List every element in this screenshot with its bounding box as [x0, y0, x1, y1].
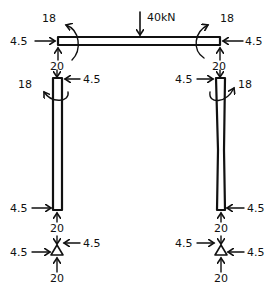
left-support — [51, 245, 63, 255]
left-column-top-horizontal-force-label: 4.5 — [83, 73, 101, 86]
beam-left-moment-arrow — [66, 25, 78, 60]
right-column-top-moment-label: 18 — [238, 78, 252, 91]
right-support-right-horizontal-force-label: 4.5 — [247, 246, 265, 259]
right-column-bottom-vertical-force-label: 20 — [214, 222, 228, 235]
beam-left-horizontal-force-label: 4.5 — [10, 35, 28, 48]
left-column-bottom-horizontal-force-label: 4.5 — [10, 202, 28, 215]
right-support-vertical-force-label: 20 — [214, 272, 228, 285]
load-label: 40kN — [147, 11, 176, 24]
right-column — [216, 78, 225, 210]
left-column — [53, 78, 62, 210]
beam-right-moment-arrow — [196, 25, 208, 58]
left-column-top-moment-arrow — [44, 92, 68, 100]
beam-right-vertical-force-label: 20 — [212, 60, 226, 73]
beam-left-moment-label: 18 — [42, 12, 56, 25]
left-column-bottom-vertical-force-label: 20 — [50, 222, 64, 235]
left-support-vertical-force-label: 20 — [50, 272, 64, 285]
left-column-top-moment-label: 18 — [18, 78, 32, 91]
right-column-bottom-horizontal-force-label: 4.5 — [247, 202, 265, 215]
right-column-top-moment-arrow — [210, 88, 234, 101]
beam-right-moment-label: 18 — [220, 12, 234, 25]
right-column-top-horizontal-force-label: 4.5 — [175, 73, 193, 86]
beam-right-horizontal-force-label: 4.5 — [245, 35, 263, 48]
right-support — [215, 245, 227, 255]
left-support-left-horizontal-force-label: 4.5 — [10, 246, 28, 259]
right-support-left-horizontal-force-label: 4.5 — [175, 237, 193, 250]
free-body-diagram: 40kN 4.5 20 18 4.5 20 18 4.5 18 4.5 — [0, 0, 280, 292]
left-support-right-horizontal-force-label: 4.5 — [83, 237, 101, 250]
